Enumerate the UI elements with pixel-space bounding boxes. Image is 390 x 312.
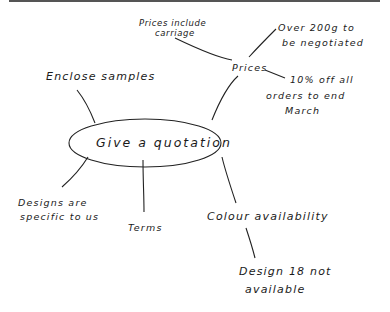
node-designs-specific-line1: Designs are <box>18 196 88 209</box>
node-discount-line2: orders to end <box>266 89 346 102</box>
node-over-200g-line2: be negotiated <box>282 36 364 49</box>
node-discount-line3: March <box>285 104 320 117</box>
node-prices: Prices <box>232 61 268 74</box>
center-node-label: Give a quotation <box>96 136 232 149</box>
node-enclose-samples: Enclose samples <box>46 70 155 83</box>
node-prices-include-carriage-line2: carriage <box>155 28 195 38</box>
node-prices-include-carriage-line1: Prices include <box>139 18 206 28</box>
node-discount-line1: 10% off all <box>290 73 354 86</box>
node-design18-line1: Design 18 not <box>239 265 332 278</box>
node-designs-specific-line2: specific to us <box>20 210 99 223</box>
node-terms: Terms <box>128 221 163 234</box>
node-colour-availability: Colour availability <box>207 210 329 223</box>
node-design18-line2: available <box>245 283 305 296</box>
node-over-200g-line1: Over 200g to <box>278 21 355 34</box>
